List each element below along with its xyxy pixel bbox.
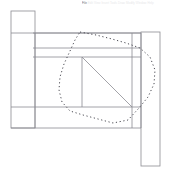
geometry-layer <box>11 11 160 166</box>
left-column[interactable] <box>11 11 35 128</box>
main-body-outline[interactable] <box>11 33 141 128</box>
right-column[interactable] <box>141 32 160 166</box>
drawing-canvas[interactable] <box>0 0 171 173</box>
cad-viewport[interactable]: File Edit View Insert Tools Draw Modify … <box>0 0 171 173</box>
diagonal-brace[interactable] <box>82 57 132 107</box>
